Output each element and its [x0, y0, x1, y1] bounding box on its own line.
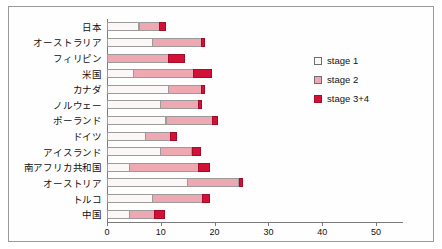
legend-label: stage 2	[327, 74, 358, 85]
bar-segment-stage-1	[107, 147, 161, 156]
bar-segment-stage-3-4	[192, 147, 201, 156]
legend-item: stage 3+4	[314, 89, 426, 108]
x-tick-mark	[376, 222, 377, 226]
stacked-bar	[107, 116, 218, 125]
stacked-bar	[107, 69, 212, 78]
legend-item: stage 1	[314, 51, 426, 70]
bar-segment-stage-3-4	[202, 194, 210, 203]
bar-segment-stage-1	[107, 22, 139, 31]
bar-segment-stage-1	[107, 85, 169, 94]
bar-segment-stage-3-4	[159, 22, 165, 31]
bar-segment-stage-2	[160, 100, 199, 109]
x-tick-label: 0	[104, 227, 109, 237]
bar-segment-stage-3-4	[154, 210, 165, 219]
stacked-bar	[107, 85, 205, 94]
category-label: カナダ	[73, 82, 102, 96]
bar-segment-stage-2	[166, 116, 213, 125]
bar-segment-stage-1	[107, 194, 153, 203]
legend-label: stage 1	[327, 55, 358, 66]
x-tick-mark	[268, 222, 269, 226]
stacked-bar	[107, 194, 210, 203]
bar-segment-stage-2	[129, 210, 154, 219]
stacked-bar	[107, 210, 165, 219]
bar-segment-stage-3-4	[201, 38, 205, 47]
chart-frame: 01020304050 日本オーストラリアフィリピン米国カナダノルウェーポーラン…	[8, 6, 434, 242]
x-tick-mark	[107, 222, 108, 226]
category-label: 日本	[82, 20, 102, 34]
stacked-bar	[107, 38, 205, 47]
stacked-bar	[107, 100, 202, 109]
stacked-bar	[107, 54, 185, 63]
x-tick-label: 10	[156, 227, 166, 237]
bar-segment-stage-1	[107, 100, 161, 109]
bar-segment-stage-2	[152, 38, 202, 47]
category-label: 南アフリカ共和国	[24, 160, 102, 174]
category-label: フィリピン	[53, 51, 102, 65]
x-tick-label: 50	[371, 227, 381, 237]
bar-segment-stage-3-4	[170, 132, 176, 141]
stacked-bar	[107, 147, 201, 156]
legend-swatch-icon	[314, 57, 322, 65]
plot-area: 01020304050 日本オーストラリアフィリピン米国カナダノルウェーポーラン…	[107, 19, 403, 222]
category-label: 中国	[82, 207, 102, 221]
bar-segment-stage-2	[152, 194, 203, 203]
bar-segment-stage-3-4	[168, 54, 185, 63]
bar-segment-stage-1	[107, 38, 153, 47]
category-label: トルコ	[73, 192, 102, 206]
bar-segment-stage-1	[107, 132, 146, 141]
category-label: オーストラリア	[33, 35, 102, 49]
bar-segment-stage-2	[107, 54, 169, 63]
bar-segment-stage-3-4	[239, 178, 243, 187]
stacked-bar	[107, 178, 243, 187]
bar-segment-stage-2	[139, 22, 161, 31]
category-label: ノルウェー	[53, 98, 102, 112]
category-label: ドイツ	[73, 129, 102, 143]
bar-segment-stage-1	[107, 210, 130, 219]
bar-segment-stage-2	[145, 132, 171, 141]
x-tick-label: 20	[210, 227, 220, 237]
bar-segment-stage-1	[107, 163, 130, 172]
x-tick-mark	[161, 222, 162, 226]
bar-segment-stage-2	[129, 163, 198, 172]
category-label: 米国	[82, 67, 102, 81]
legend-label: stage 3+4	[327, 93, 369, 104]
x-tick-label: 30	[263, 227, 273, 237]
stacked-bar	[107, 132, 177, 141]
x-tick-mark	[215, 222, 216, 226]
x-tick-mark	[322, 222, 323, 226]
bar-segment-stage-2	[187, 178, 239, 187]
bar-segment-stage-1	[107, 116, 166, 125]
bar-segment-stage-2	[168, 85, 201, 94]
x-axis-line	[107, 222, 403, 223]
bar-segment-stage-1	[107, 69, 134, 78]
bar-segment-stage-3-4	[193, 69, 212, 78]
stacked-bar	[107, 163, 210, 172]
bar-segment-stage-3-4	[201, 85, 205, 94]
bar-segment-stage-3-4	[198, 163, 210, 172]
bar-segment-stage-2	[133, 69, 194, 78]
legend-item: stage 2	[314, 70, 426, 89]
bar-segment-stage-3-4	[212, 116, 217, 125]
legend-swatch-icon	[314, 76, 322, 84]
bar-segment-stage-1	[107, 178, 188, 187]
stacked-bar	[107, 22, 166, 31]
x-tick-label: 40	[317, 227, 327, 237]
category-label: オーストリア	[43, 176, 102, 190]
bar-segment-stage-3-4	[198, 100, 202, 109]
chart-legend: stage 1stage 2stage 3+4	[314, 51, 426, 108]
category-label: ポーランド	[53, 113, 102, 127]
legend-swatch-icon	[314, 95, 322, 103]
bar-segment-stage-2	[160, 147, 192, 156]
category-label: アイスランド	[43, 145, 102, 159]
